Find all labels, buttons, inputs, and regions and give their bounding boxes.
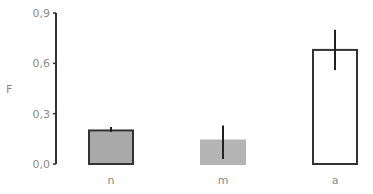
y-tick-label: 0,9: [33, 7, 51, 20]
y-tick-label: 0,0: [33, 158, 51, 171]
y-axis: 0,00,30,60,9: [33, 7, 57, 171]
y-tick-label: 0,6: [33, 57, 51, 70]
bars: [89, 30, 357, 164]
category-label-a: a: [332, 174, 339, 187]
bar-chart: 0,00,30,60,9 nma F: [0, 0, 373, 194]
category-labels: nma: [108, 174, 339, 187]
category-label-m: m: [218, 174, 229, 187]
y-axis-label: F: [6, 83, 12, 96]
y-tick-label: 0,3: [33, 108, 51, 121]
bar-n: [89, 130, 133, 164]
category-label-n: n: [108, 174, 115, 187]
